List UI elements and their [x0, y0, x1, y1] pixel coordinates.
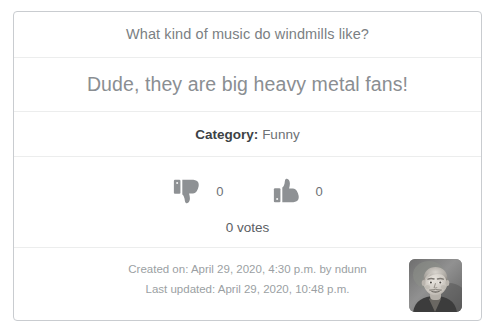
- upvote-group[interactable]: 0: [272, 176, 323, 206]
- question-section: What kind of music do windmills like?: [14, 12, 481, 57]
- thumbs-up-icon[interactable]: [272, 176, 302, 206]
- joke-question: What kind of music do windmills like?: [126, 26, 369, 43]
- last-updated-text: Last updated: April 29, 2020, 10:48 p.m.: [128, 279, 366, 299]
- vote-row: 0 0: [14, 171, 481, 211]
- total-votes-label: 0 votes: [14, 220, 481, 235]
- footer-meta: Created on: April 29, 2020, 4:30 p.m. by…: [128, 259, 366, 299]
- thumbs-down-icon[interactable]: [172, 176, 202, 206]
- joke-punchline: Dude, they are big heavy metal fans!: [87, 73, 408, 96]
- footer-section: Created on: April 29, 2020, 4:30 p.m. by…: [14, 247, 481, 310]
- avatar: [409, 259, 462, 312]
- votes-section: 0 0 0 votes: [14, 156, 481, 247]
- category-value: Funny: [262, 127, 300, 142]
- downvote-count: 0: [216, 184, 223, 199]
- punchline-section: Dude, they are big heavy metal fans!: [14, 57, 481, 111]
- category-section: Category: Funny: [14, 111, 481, 156]
- category-label: Category:: [195, 127, 258, 142]
- page-root: What kind of music do windmills like? Du…: [0, 0, 497, 334]
- category-line: Category: Funny: [195, 127, 299, 142]
- created-on-text: Created on: April 29, 2020, 4:30 p.m. by…: [128, 259, 366, 279]
- downvote-group[interactable]: 0: [172, 176, 223, 206]
- upvote-count: 0: [316, 184, 323, 199]
- joke-card: What kind of music do windmills like? Du…: [13, 11, 482, 321]
